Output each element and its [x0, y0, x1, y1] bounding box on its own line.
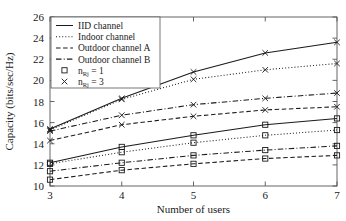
legend-entry-hit[interactable] — [52, 76, 159, 87]
legend-label: IID channel — [78, 21, 123, 31]
legend-entry-0[interactable]: IID channel — [52, 20, 159, 31]
y-tick-label: 14 — [33, 138, 45, 150]
legend-label: Outdoor channel A — [78, 43, 150, 53]
x-axis-title: Number of users — [157, 203, 230, 215]
x-tick-label: 6 — [263, 189, 269, 201]
legend-label: nRj = 1 — [78, 66, 104, 77]
legend-entry-hit[interactable] — [52, 65, 159, 76]
legend-entry-1[interactable]: Indoor channel — [52, 31, 159, 42]
y-tick-label: 20 — [33, 74, 45, 86]
x-tick-label: 5 — [191, 189, 197, 201]
y-tick-label: 16 — [33, 117, 45, 129]
chart-canvas: IID channelIndoor channelOutdoor channel… — [0, 0, 346, 221]
legend-entry-3[interactable]: Outdoor channel B — [52, 54, 159, 65]
legend-label: Indoor channel — [78, 32, 136, 42]
x-tick-label: 7 — [334, 189, 340, 201]
y-tick-label: 22 — [33, 53, 44, 65]
legend-layer[interactable]: IID channelIndoor channelOutdoor channel… — [51, 17, 160, 88]
x-tick-label: 4 — [119, 189, 125, 201]
legend-entry-5[interactable]: nRj = 3 — [52, 76, 159, 88]
legend-entry-2[interactable]: Outdoor channel A — [52, 43, 159, 54]
y-tick-label: 24 — [33, 32, 45, 44]
y-tick-label: 12 — [33, 159, 44, 171]
legend-label: nRj = 3 — [78, 77, 104, 88]
x-tick-label: 3 — [47, 189, 53, 201]
y-axis-title: Capacity (bits/sec/Hz) — [3, 52, 16, 150]
legend-equation: = 3 — [89, 77, 104, 87]
legend-label: Outdoor channel B — [78, 55, 150, 65]
y-tick-label: 26 — [33, 11, 45, 23]
legend-equation: = 1 — [89, 66, 104, 76]
y-tick-label: 10 — [33, 180, 45, 192]
y-tick-label: 18 — [33, 96, 45, 108]
legend-entry-4[interactable]: nRj = 1 — [52, 65, 159, 77]
capacity-vs-users-chart: IID channelIndoor channelOutdoor channel… — [0, 0, 346, 221]
